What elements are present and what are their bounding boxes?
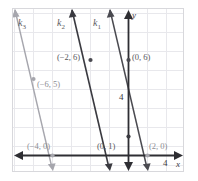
point-label-2-0: (2, 0) [149,142,167,151]
point-label-0-6: (0, 6) [132,53,150,62]
y-axis-label: y [132,11,136,20]
point-label-neg2-6: (−2, 6) [57,53,80,62]
point-label-neg4-0: (−4, 0) [27,142,50,151]
y-tick-label-4: 4 [119,93,124,102]
line-label-k1: k1 [93,18,101,31]
x-axis [14,151,183,160]
line-label-k3: k3 [18,18,26,31]
line-label-k2: k2 [57,18,65,31]
point-label-neg6-5: (−6, 5) [37,80,60,89]
point-label-0-1: (0, 1) [97,142,115,151]
x-axis-label: x [176,160,180,169]
graph-figure: k3 k2 k1 (−2, 6) (0, 6) (−6, 5) (−4, 0) … [0,0,198,181]
x-tick-label-4: 4 [163,159,168,168]
